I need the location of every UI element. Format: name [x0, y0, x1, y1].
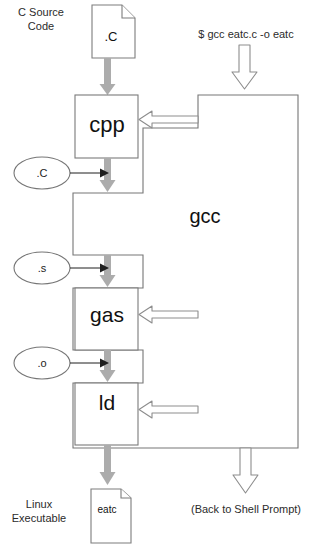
stage-label-ld: ld	[75, 391, 139, 415]
arrow-command-to-gcc	[232, 45, 257, 89]
arrow-dot-o-to-flow	[70, 359, 109, 368]
arrow-dot-c-to-flow	[70, 169, 109, 178]
label-linux-executable: Linux Executable	[2, 498, 76, 526]
label-shell-command: $ gcc eatc.c -o eatc	[180, 28, 312, 42]
arrow-dot-s-to-flow	[70, 264, 109, 273]
label-back-to-shell-prompt: (Back to Shell Prompt)	[178, 503, 314, 517]
label-c-source-code: C Source Code	[4, 6, 78, 34]
executable-document-icon	[91, 489, 131, 543]
arrow-gcc-to-shell	[233, 448, 258, 493]
diagram-vector-layer	[0, 0, 315, 553]
file-label-dot-s: .s	[18, 262, 66, 274]
diagram-canvas: C Source Code $ gcc eatc.c -o eatc Linux…	[0, 0, 315, 553]
arrow-gcc-to-cpp	[139, 111, 198, 128]
document-label-source: .C	[90, 29, 132, 44]
stage-label-cpp: cpp	[75, 112, 139, 138]
file-label-dot-c: .C	[18, 167, 66, 179]
arrow-ld-to-executable	[100, 445, 116, 485]
arrow-source-to-cpp	[100, 58, 116, 95]
stage-label-gas: gas	[75, 303, 139, 327]
file-label-dot-o: .o	[18, 357, 66, 369]
document-label-executable: eatc	[84, 504, 130, 515]
wrapper-label-gcc: gcc	[176, 205, 234, 228]
